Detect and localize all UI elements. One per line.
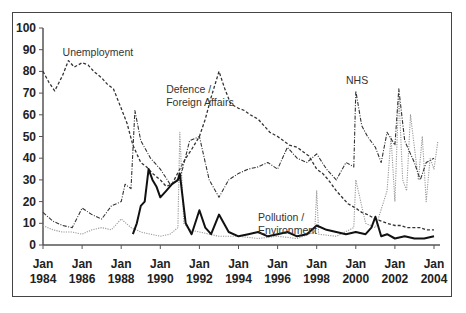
series-defence-foreign-affairs	[43, 93, 438, 238]
y-tick-label: 20	[23, 195, 37, 209]
x-tick-label: Jan	[424, 257, 445, 271]
series-annotations: UnemploymentDefence /Foreign AffairsNHSP…	[63, 46, 369, 236]
y-tick-label: 0	[29, 238, 36, 252]
x-tick-label: 2000	[342, 272, 369, 286]
x-tick-label: 1986	[69, 272, 96, 286]
y-tick-label: 70	[23, 86, 37, 100]
annotation-label: NHS	[346, 74, 368, 86]
x-tick-label: 1998	[303, 272, 330, 286]
x-tick-label: Jan	[267, 257, 288, 271]
x-tick-label: Jan	[385, 257, 406, 271]
x-tick-label: Jan	[150, 257, 171, 271]
annotation-label: Environment	[258, 224, 317, 236]
x-tick-label: 1992	[186, 272, 213, 286]
x-axis-ticks: Jan1984Jan1986Jan1988Jan1990Jan1992Jan19…	[30, 245, 448, 286]
line-chart: 0102030405060708090100 Jan1984Jan1986Jan…	[0, 0, 466, 313]
annotation-label: Unemployment	[63, 46, 134, 58]
y-tick-label: 60	[23, 108, 37, 122]
y-axis-ticks: 0102030405060708090100	[16, 21, 43, 252]
x-tick-label: Jan	[228, 257, 249, 271]
data-series	[43, 61, 438, 239]
annotation-label: Defence /	[166, 83, 211, 95]
annotation-label: Pollution /	[258, 211, 304, 223]
y-tick-label: 40	[23, 151, 37, 165]
x-tick-label: 1996	[264, 272, 291, 286]
x-tick-label: 1994	[225, 272, 252, 286]
x-tick-label: 1984	[30, 272, 57, 286]
x-tick-label: 2002	[382, 272, 409, 286]
x-tick-label: 1990	[147, 272, 174, 286]
series-unemployment	[43, 61, 434, 230]
x-tick-label: Jan	[72, 257, 93, 271]
series-nhs	[43, 89, 434, 228]
y-tick-label: 30	[23, 173, 37, 187]
y-tick-label: 10	[23, 216, 37, 230]
x-tick-label: 2004	[421, 272, 448, 286]
x-tick-label: 1988	[108, 272, 135, 286]
x-tick-label: Jan	[111, 257, 132, 271]
y-tick-label: 80	[23, 64, 37, 78]
x-tick-label: Jan	[306, 257, 327, 271]
y-tick-label: 90	[23, 43, 37, 57]
x-tick-label: Jan	[189, 257, 210, 271]
x-tick-label: Jan	[345, 257, 366, 271]
y-tick-label: 50	[23, 130, 37, 144]
annotation-label: Foreign Affairs	[166, 96, 234, 108]
y-tick-label: 100	[16, 21, 36, 35]
x-tick-label: Jan	[33, 257, 54, 271]
